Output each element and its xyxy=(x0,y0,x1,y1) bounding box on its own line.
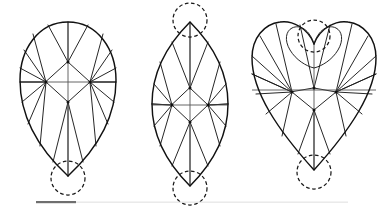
facet-line xyxy=(68,102,83,162)
facet-line xyxy=(172,42,190,88)
facet-line xyxy=(298,110,314,154)
gem-shape-pear xyxy=(20,22,116,195)
lower-node xyxy=(67,101,70,104)
facet-line xyxy=(172,122,190,166)
facet-line xyxy=(90,68,116,82)
facet-line xyxy=(24,50,46,82)
facet-line xyxy=(276,24,292,92)
gem-shape-marquise xyxy=(152,3,228,205)
gem-facet-diagram xyxy=(0,0,384,207)
facet-line xyxy=(256,92,292,94)
facet-line xyxy=(20,68,46,82)
rule-light-segment xyxy=(76,202,348,203)
gem-shape-heart xyxy=(252,20,376,189)
facet-line xyxy=(336,24,352,92)
facet-line xyxy=(22,82,46,102)
facet-line xyxy=(53,102,68,162)
facet-line xyxy=(190,42,208,88)
left-node xyxy=(171,104,174,107)
bottom-rule-layer xyxy=(36,201,348,203)
facet-line xyxy=(314,25,330,88)
facet-line xyxy=(190,122,208,166)
facet-line xyxy=(336,92,372,94)
rule-dark-segment xyxy=(36,201,76,203)
left-node xyxy=(291,91,294,94)
upper-node xyxy=(67,61,70,64)
facet-line xyxy=(48,25,68,62)
facet-line xyxy=(90,50,112,82)
upper-node xyxy=(189,87,192,90)
facet-line xyxy=(90,82,108,124)
facet-line xyxy=(90,34,103,82)
right-node xyxy=(89,81,92,84)
facet-line xyxy=(68,25,88,62)
facet-line xyxy=(314,110,330,154)
facet-line xyxy=(90,82,96,146)
facet-line xyxy=(160,105,172,146)
facet-line xyxy=(90,82,114,102)
right-node xyxy=(335,91,338,94)
right-node xyxy=(207,104,210,107)
facet-line xyxy=(33,34,46,82)
facet-line xyxy=(208,105,220,146)
facet-line xyxy=(300,25,314,88)
shapes-layer xyxy=(20,3,376,205)
lower-node xyxy=(189,121,192,124)
lower-node xyxy=(313,109,316,112)
facet-line xyxy=(28,82,46,124)
upper-node xyxy=(313,87,316,90)
facet-line xyxy=(40,82,46,146)
left-node xyxy=(45,81,48,84)
